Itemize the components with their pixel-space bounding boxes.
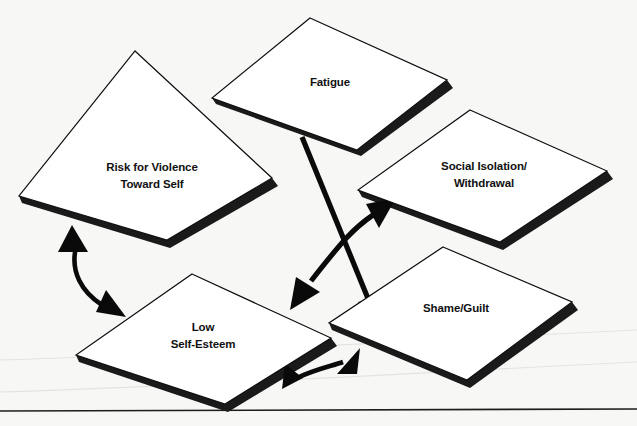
- node-fatigue-label-line1: Fatigue: [310, 76, 350, 88]
- node-risk-for-violence-label-line2: Toward Self: [120, 178, 183, 190]
- node-low-self-esteem-label-line1: Low: [192, 321, 215, 333]
- node-social-isolation-label-line2: Withdrawal: [454, 177, 514, 189]
- node-social-isolation-label-line1: Social Isolation/: [441, 160, 528, 172]
- node-low-self-esteem-label-line2: Self-Esteem: [171, 338, 236, 350]
- diagram-page: Fatigue Risk for Violence Toward Self So…: [0, 0, 637, 426]
- concept-map-diagram: Fatigue Risk for Violence Toward Self So…: [0, 0, 637, 426]
- node-shame-guilt-label-line1: Shame/Guilt: [423, 302, 489, 314]
- node-risk-for-violence-label-line1: Risk for Violence: [106, 161, 197, 173]
